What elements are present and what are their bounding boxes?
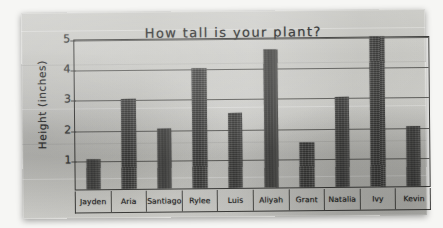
bar-aliyah — [263, 49, 279, 187]
x-axis-cell-ivy: Ivy — [361, 188, 397, 209]
x-axis-cell-rylee: Rylee — [183, 190, 219, 211]
y-tick-label-3: 3 — [64, 92, 71, 105]
y-tick-label-2: 2 — [64, 123, 71, 136]
x-axis-cell-kevin: Kevin — [396, 188, 432, 209]
y-tick-label-1: 1 — [64, 153, 71, 166]
x-axis-cell-jayden: Jayden — [76, 191, 112, 212]
bar-luis — [228, 113, 243, 188]
x-tick-label: Aria — [121, 197, 137, 206]
x-tick-label: Jayden — [80, 197, 106, 206]
photograph-background: How tall is your plant? Height (inches) … — [0, 0, 443, 228]
y-tick-label-5: 5 — [63, 32, 70, 45]
tick-mark-1 — [71, 161, 76, 162]
x-axis-cell-aria: Aria — [111, 191, 147, 212]
bar-natalia — [335, 97, 350, 187]
x-tick-label: Kevin — [403, 194, 424, 203]
bar-kevin — [406, 126, 421, 186]
tick-mark-4 — [71, 70, 76, 71]
x-tick-label: Luis — [228, 196, 243, 205]
x-axis-cell-luis: Luis — [218, 190, 254, 211]
x-axis-cell-santiago: Santiago — [147, 190, 183, 211]
y-tick-label-4: 4 — [63, 62, 70, 75]
plot-area: 5 4 3 2 1 — [73, 36, 430, 190]
x-axis-label-row: JaydenAriaSantiagoRyleeLuisAliyahGrantNa… — [75, 188, 431, 213]
bar-aria — [121, 99, 136, 189]
x-tick-label: Grant — [296, 195, 318, 204]
x-axis-cell-grant: Grant — [289, 189, 325, 210]
x-tick-label: Natalia — [328, 195, 356, 204]
x-tick-label: Ivy — [372, 194, 384, 203]
x-tick-label: Aliyah — [259, 195, 283, 204]
bar-jayden — [86, 159, 101, 189]
x-axis-cell-aliyah: Aliyah — [254, 189, 290, 210]
x-axis-cell-natalia: Natalia — [325, 189, 361, 210]
bar-grant — [300, 142, 315, 187]
y-axis-label: Height (inches) — [35, 45, 48, 165]
x-tick-label: Santiago — [147, 196, 181, 205]
tick-mark-2 — [71, 131, 76, 132]
tick-mark-3 — [71, 100, 76, 101]
tick-mark-5 — [70, 40, 75, 41]
bar-santiago — [157, 129, 172, 189]
bar-rylee — [192, 68, 207, 188]
x-tick-label: Rylee — [189, 196, 210, 205]
bar-ivy — [370, 36, 386, 186]
chart-poster: How tall is your plant? Height (inches) … — [21, 9, 427, 219]
